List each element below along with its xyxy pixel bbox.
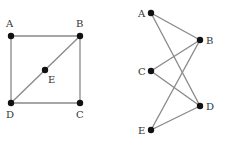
node-D xyxy=(197,103,203,109)
node-C xyxy=(148,68,154,74)
node-E xyxy=(148,127,154,133)
node-label-D: D xyxy=(206,101,214,112)
edge-E-D xyxy=(151,106,200,130)
edge-E-D xyxy=(11,70,45,103)
edge-C-B xyxy=(151,40,200,71)
node-B xyxy=(197,37,203,43)
node-label-C: C xyxy=(76,109,84,120)
node-label-B: B xyxy=(76,18,83,29)
node-label-E: E xyxy=(138,125,145,136)
node-B xyxy=(77,33,83,39)
bipartite-graph: ABCDE xyxy=(137,8,214,136)
graph-diagram: ABEDCABCDE xyxy=(0,0,226,144)
node-label-B: B xyxy=(206,35,213,46)
edge-E-B xyxy=(151,40,200,130)
node-label-E: E xyxy=(48,74,55,85)
node-label-A: A xyxy=(5,18,14,29)
node-label-C: C xyxy=(138,66,146,77)
node-A xyxy=(8,33,14,39)
node-E xyxy=(42,67,48,73)
node-A xyxy=(148,10,154,16)
square-graph: ABEDC xyxy=(5,18,84,120)
node-label-D: D xyxy=(6,109,14,120)
node-D xyxy=(8,100,14,106)
edge-B-E xyxy=(45,36,80,70)
node-label-A: A xyxy=(137,8,146,19)
node-C xyxy=(77,100,83,106)
edge-C-D xyxy=(151,71,200,106)
